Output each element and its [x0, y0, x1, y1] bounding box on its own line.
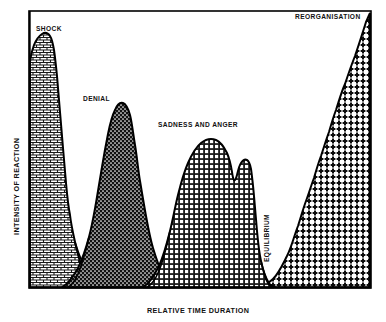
y-axis-label: INTENSITY OF REACTION: [13, 138, 20, 235]
label-sadness-and-anger: SADNESS AND ANGER: [158, 122, 238, 129]
label-denial: DENIAL: [83, 96, 110, 103]
label-shock: SHOCK: [36, 26, 62, 33]
label-equilibrium: EQUILIBRIUM: [264, 214, 271, 262]
grief-curve-chart: [0, 0, 386, 322]
x-axis-label: RELATIVE TIME DURATION: [147, 307, 249, 314]
figure-canvas: SHOCK DENIAL SADNESS AND ANGER REORGANIS…: [0, 0, 386, 322]
label-reorganisation: REORGANISATION: [295, 14, 361, 21]
